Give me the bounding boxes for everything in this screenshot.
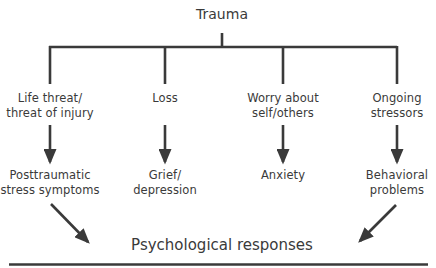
cause-node-stressors: Ongoing stressors <box>371 91 424 121</box>
effect-label-line: depression <box>133 183 197 198</box>
cause-label-line: stressors <box>371 106 424 121</box>
arrow-diagonal-left-icon <box>360 205 396 241</box>
effect-label-line: stress symptoms <box>0 183 99 198</box>
cause-label-line: Worry about <box>247 91 319 106</box>
cause-label-line: self/others <box>247 106 319 121</box>
effect-node-grief: Grief/ depression <box>133 168 197 198</box>
cause-label-line: Loss <box>152 91 178 106</box>
cause-node-life-threat: Life threat/ threat of injury <box>6 91 93 121</box>
effect-node-anxiety: Anxiety <box>261 168 305 183</box>
root-node-trauma: Trauma <box>196 6 248 22</box>
cause-label-line: threat of injury <box>6 106 93 121</box>
connector-lines <box>0 0 436 268</box>
effect-label-line: Grief/ <box>133 168 197 183</box>
effect-label-line: Posttraumatic <box>0 168 99 183</box>
outcome-node-psychological-responses: Psychological responses <box>131 236 313 254</box>
effect-node-behavioral: Behavioral problems <box>366 168 428 198</box>
effect-node-ptss: Posttraumatic stress symptoms <box>0 168 99 198</box>
effect-label-line: Anxiety <box>261 168 305 183</box>
effect-label-line: Behavioral <box>366 168 428 183</box>
arrow-diagonal-right-icon <box>51 204 88 242</box>
cause-node-worry: Worry about self/others <box>247 91 319 121</box>
trauma-diagram: Trauma Life threat/ threat of injury Los… <box>0 0 436 268</box>
effect-label-line: problems <box>366 183 428 198</box>
cause-label-line: Life threat/ <box>6 91 93 106</box>
cause-label-line: Ongoing <box>371 91 424 106</box>
cause-node-loss: Loss <box>152 91 178 106</box>
